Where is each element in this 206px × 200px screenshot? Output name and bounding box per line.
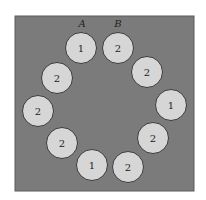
circle-3: 1: [156, 90, 187, 121]
circle-0: 1: [66, 33, 97, 64]
circle-value: 2: [35, 106, 41, 117]
circle-7: 2: [47, 128, 78, 159]
circle-value: 1: [78, 43, 84, 54]
circle-value: 2: [144, 67, 150, 78]
circle-value: 1: [89, 160, 95, 171]
circle-value: 2: [115, 43, 121, 54]
circle-2: 2: [132, 57, 163, 88]
marker-a: A: [77, 18, 85, 29]
circle-8: 2: [23, 96, 54, 127]
circle-value: 2: [150, 133, 156, 144]
circle-value: 2: [59, 138, 65, 149]
circle-1: 2: [103, 33, 134, 64]
circle-diagram: A B 1 2 2 1 2 2 1 2 2 2: [0, 0, 206, 200]
circle-4: 2: [138, 123, 169, 154]
circle-value: 2: [54, 73, 60, 84]
circle-value: 1: [168, 100, 174, 111]
circle-value: 2: [125, 162, 131, 173]
marker-b: B: [113, 18, 121, 29]
circle-5: 2: [113, 152, 144, 183]
circle-6: 1: [77, 150, 108, 181]
circle-9: 2: [42, 63, 73, 94]
